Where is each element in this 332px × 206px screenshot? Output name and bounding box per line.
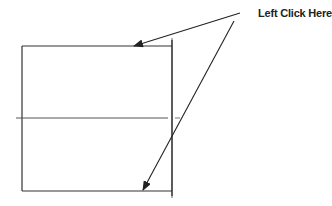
diagram-drawing [0,0,332,206]
diagram-canvas: Left Click Here [0,0,332,206]
callout-label: Left Click Here [258,7,332,19]
arrow-to-top-edge [134,13,240,46]
